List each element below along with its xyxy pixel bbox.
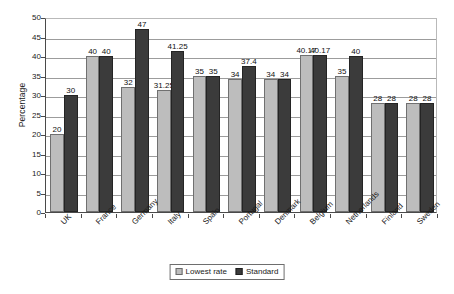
legend-item: Lowest rate — [176, 267, 227, 276]
legend-item: Standard — [236, 267, 278, 276]
bar-value-label: 40 — [341, 47, 371, 56]
x-tick-mark — [81, 214, 82, 218]
y-tick-label: 45 — [17, 34, 41, 42]
bar-spain-standard — [206, 76, 220, 213]
bar-value-label: 28 — [412, 94, 442, 103]
bar-germany-lowest-rate — [121, 87, 135, 212]
x-tick-mark — [366, 214, 367, 218]
y-tick-label: 30 — [17, 92, 41, 100]
bar-italy-standard — [171, 51, 185, 212]
bar-value-label: 37.4 — [234, 57, 264, 66]
bar-value-label: 41.25 — [163, 42, 193, 51]
bar-denmark-standard — [278, 79, 292, 212]
x-tick-mark — [330, 214, 331, 218]
bar-value-label: 30 — [56, 86, 86, 95]
x-tick-mark — [116, 214, 117, 218]
bar-sweden-standard — [420, 103, 434, 212]
bar-sweden-lowest-rate — [406, 103, 420, 212]
x-tick-mark — [437, 214, 438, 218]
bar-portugal-lowest-rate — [228, 79, 242, 212]
y-tick-label: 50 — [17, 14, 41, 22]
y-tick-label: 10 — [17, 170, 41, 178]
bar-value-label: 40 — [91, 47, 121, 56]
bar-netherlands-standard — [349, 56, 363, 212]
x-tick-mark — [45, 214, 46, 218]
x-category-label-uk: UK — [59, 212, 73, 226]
bar-portugal-standard — [242, 66, 256, 212]
y-tick-label: 40 — [17, 53, 41, 61]
bar-uk-standard — [64, 95, 78, 212]
x-tick-mark — [294, 214, 295, 218]
bar-value-label: 34 — [269, 70, 299, 79]
bar-value-label: 47 — [127, 20, 157, 29]
legend-swatch-dark — [236, 268, 243, 275]
x-tick-mark — [401, 214, 402, 218]
x-tick-mark — [152, 214, 153, 218]
y-axis-title: Percentage — [17, 45, 27, 165]
y-tick-label: 25 — [17, 112, 41, 120]
plot-area: 20304040324731.2541.2535353437.4343440.1… — [45, 18, 437, 213]
y-tick-label: 35 — [17, 73, 41, 81]
y-tick-label: 20 — [17, 131, 41, 139]
bar-france-standard — [99, 56, 113, 212]
bar-netherlands-lowest-rate — [335, 76, 349, 213]
legend-label: Lowest rate — [186, 267, 227, 276]
y-tick-label: 5 — [17, 190, 41, 198]
y-tick-label: 15 — [17, 151, 41, 159]
bar-value-label: 40.17 — [305, 46, 335, 55]
bar-belgium-lowest-rate — [300, 55, 314, 212]
bar-finland-standard — [385, 103, 399, 212]
x-tick-mark — [223, 214, 224, 218]
bar-belgium-standard — [313, 55, 327, 212]
y-tick-label: 0 — [17, 209, 41, 217]
legend-label: Standard — [246, 267, 278, 276]
bar-italy-lowest-rate — [157, 90, 171, 212]
bar-chart: Percentage 05101520253035404550 20304040… — [0, 0, 454, 294]
bar-spain-lowest-rate — [193, 76, 207, 213]
gridline — [46, 39, 436, 40]
bar-germany-standard — [135, 29, 149, 212]
legend-swatch-light — [176, 268, 183, 275]
bar-denmark-lowest-rate — [264, 79, 278, 212]
bar-uk-lowest-rate — [50, 134, 64, 212]
x-tick-mark — [188, 214, 189, 218]
x-tick-mark — [259, 214, 260, 218]
bar-france-lowest-rate — [86, 56, 100, 212]
legend: Lowest rateStandard — [170, 264, 285, 280]
